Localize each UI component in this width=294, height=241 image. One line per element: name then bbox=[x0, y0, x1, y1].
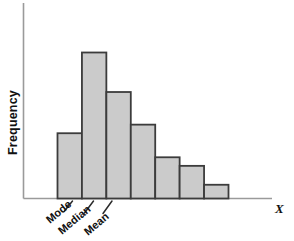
histogram-bar bbox=[106, 92, 130, 198]
histogram-bar bbox=[58, 133, 82, 198]
histogram-bar bbox=[82, 53, 106, 199]
histogram-bar bbox=[204, 185, 228, 199]
y-axis-label: Frequency bbox=[6, 90, 20, 155]
histogram-figure: Frequency X Mode Median Mean bbox=[0, 0, 294, 241]
histogram-bar bbox=[180, 166, 204, 199]
chart-canvas: Frequency X Mode Median Mean bbox=[0, 0, 294, 241]
histogram-bar bbox=[131, 125, 155, 199]
x-axis-label: X bbox=[274, 201, 284, 216]
histogram-bar bbox=[155, 157, 179, 198]
